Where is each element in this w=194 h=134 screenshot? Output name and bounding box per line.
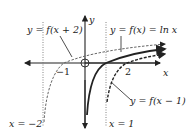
label-f-x-plus-2: y = f(x + 2): [27, 25, 83, 35]
tick-label-2: 2: [125, 67, 131, 77]
leader-f-x-plus-2: [60, 36, 72, 57]
leader-f-x-minus-1: [111, 82, 131, 100]
curve-f-x-plus-2: [44, 44, 165, 122]
tick-label-neg1: −1: [56, 67, 70, 77]
label-ln-x: y = f(x) = ln x: [110, 25, 177, 35]
label-f-x-minus-1: y = f(x − 1): [130, 96, 186, 106]
axis-label-x: x: [163, 68, 168, 78]
axis-label-y: y: [89, 15, 94, 25]
label-asymptote-1: x = 1: [109, 119, 134, 129]
label-asymptote-neg2: x = −2: [9, 119, 42, 129]
